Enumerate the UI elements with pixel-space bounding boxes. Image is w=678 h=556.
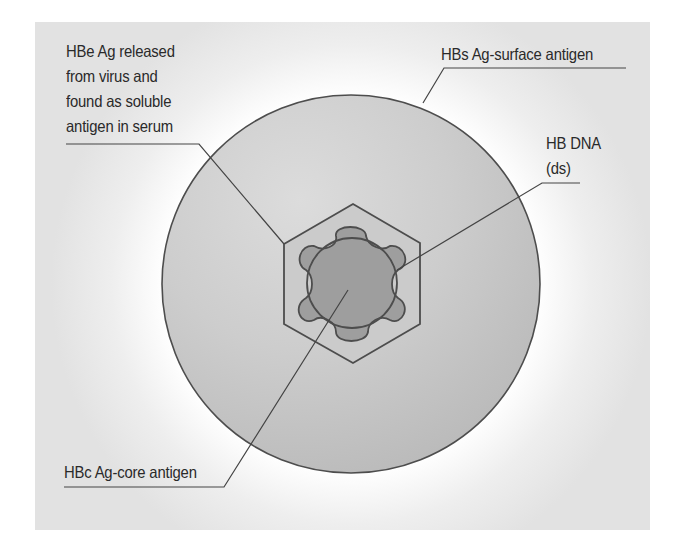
hbv-diagram: HBe Ag released from virus and found as … [0, 0, 678, 556]
hbs-antigen-label: HBs Ag-surface antigen [441, 42, 593, 67]
hbe-label-line: antigen in serum [66, 114, 175, 139]
hbc-label-line: HBc Ag-core antigen [64, 460, 197, 485]
hbdna-label-line: (ds) [546, 156, 601, 181]
hb-dna-label: HB DNA (ds) [546, 131, 601, 181]
hbc-antigen-label: HBc Ag-core antigen [64, 460, 197, 485]
hbs-label-line: HBs Ag-surface antigen [441, 42, 593, 67]
hbe-label-line: found as soluble [66, 89, 175, 114]
hbe-label-line: HBe Ag released [66, 39, 175, 64]
hbe-label-line: from virus and [66, 64, 175, 89]
hbdna-label-line: HB DNA [546, 131, 601, 156]
hbe-antigen-label: HBe Ag released from virus and found as … [66, 39, 175, 139]
